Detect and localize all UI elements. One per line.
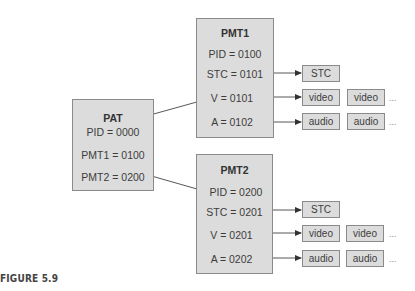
pmt2-audio-box-1: audio	[302, 250, 340, 267]
pmt2-row-video: V = 0201	[191, 229, 272, 241]
pmt2-row-audio: A = 0202	[191, 253, 272, 265]
figure-caption: FIGURE 5.9	[0, 272, 58, 285]
pmt2-row-pid: PID = 0200	[200, 186, 272, 198]
pmt1-table: PMT1 PID = 0100 STC = 0101 V = 0101 A = …	[196, 18, 274, 138]
pat-title: PAT	[73, 112, 153, 124]
pmt2-video-ellipsis: ...	[389, 229, 397, 239]
pmt1-row-pid: PID = 0100	[197, 48, 273, 60]
pat-row-pmt2: PMT2 = 0200	[73, 171, 153, 183]
pmt1-audio-ellipsis: ...	[389, 117, 397, 127]
pmt2-audio-box-2: audio	[346, 250, 384, 267]
pmt1-stc-box: STC	[302, 65, 340, 82]
pat-row-pid: PID = 0000	[73, 126, 153, 138]
pmt2-video-box-1: video	[302, 225, 340, 242]
pmt1-audio-box-2: audio	[347, 113, 385, 130]
pmt1-video-ellipsis: ...	[389, 93, 397, 103]
pmt1-row-audio: A = 0102	[191, 116, 273, 128]
pmt1-title: PMT1	[197, 27, 273, 39]
pmt1-row-stc: STC = 0101	[197, 68, 273, 80]
pmt2-row-stc: STC = 0201	[197, 206, 272, 218]
pmt1-row-video: V = 0101	[191, 92, 273, 104]
pmt2-audio-ellipsis: ...	[389, 254, 397, 264]
pmt1-video-box-2: video	[347, 89, 385, 106]
pmt2-table: PMT2 PID = 0200 STC = 0201 V = 0201 A = …	[196, 154, 273, 274]
pat-row-pmt1: PMT1 = 0100	[73, 149, 153, 161]
pmt1-audio-box-1: audio	[302, 113, 340, 130]
pmt1-video-box-1: video	[302, 89, 340, 106]
pat-table: PAT PID = 0000 PMT1 = 0100 PMT2 = 0200	[72, 99, 154, 191]
pmt2-video-box-2: video	[346, 225, 384, 242]
pmt2-title: PMT2	[197, 164, 272, 176]
pmt2-stc-box: STC	[302, 201, 340, 218]
